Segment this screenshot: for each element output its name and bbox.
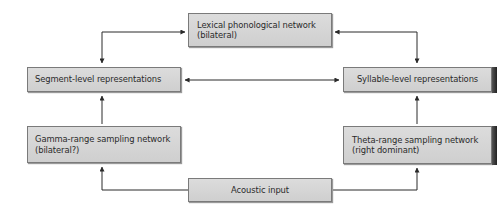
edge-segment-lexical (102, 32, 185, 63)
node-acoustic-input: Acoustic input (188, 178, 332, 202)
node-label: Acoustic input (231, 185, 289, 196)
node-lexical-phonological-network: Lexical phonological network (bilateral) (188, 13, 332, 47)
edge-syllable-lexical (335, 32, 417, 63)
node-segment-level-representations: Segment-level representations (27, 67, 181, 92)
speech-processing-diagram: Lexical phonological network (bilateral)… (0, 0, 497, 214)
node-label: Segment-level representations (35, 74, 161, 85)
node-label: Lexical phonological network (197, 20, 316, 31)
node-sublabel: (bilateral?) (35, 145, 79, 156)
edge-acoustic-theta (332, 168, 417, 190)
edge-acoustic-gamma (102, 167, 188, 190)
node-syllable-level-representations: Syllable-level representations (343, 67, 492, 92)
page-edge-shadow (492, 126, 497, 165)
page-edge-shadow (492, 67, 497, 93)
node-label: Syllable-level representations (357, 74, 478, 85)
node-theta-range-sampling-network: Theta-range sampling network (right domi… (343, 126, 492, 164)
node-label: Gamma-range sampling network (35, 134, 170, 145)
node-label: Theta-range sampling network (352, 135, 478, 146)
node-sublabel: (right dominant) (352, 145, 419, 156)
node-gamma-range-sampling-network: Gamma-range sampling network (bilateral?… (27, 126, 181, 163)
node-sublabel: (bilateral) (197, 30, 237, 41)
